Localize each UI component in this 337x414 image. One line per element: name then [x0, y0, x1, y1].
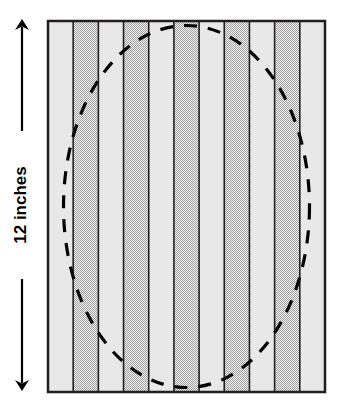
dimension-label: 12 inches	[11, 166, 30, 244]
stripe-dark-2	[124, 21, 149, 392]
figure-container: 12 inches	[0, 0, 337, 414]
stripe-dark-5	[275, 21, 300, 392]
geometry-figure-svg: 12 inches	[0, 0, 337, 414]
stripe-dark-1	[73, 21, 98, 392]
stripe-dark-3	[174, 21, 199, 392]
striped-rectangle	[48, 21, 325, 392]
dimension-arrow: 12 inches	[11, 19, 30, 391]
stripe-dark-4	[224, 21, 249, 392]
